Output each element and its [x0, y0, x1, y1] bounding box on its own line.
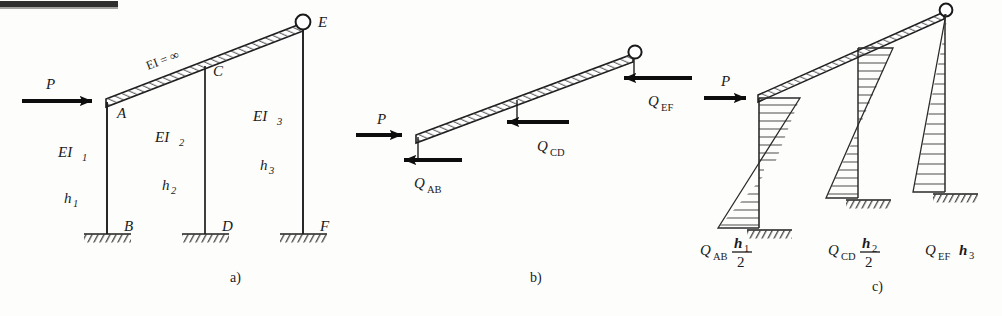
- node-label-C: C: [213, 63, 224, 79]
- node-label-E: E: [317, 14, 327, 30]
- scan-edge-artifact: [0, 1, 118, 7]
- moment-value-label-EF: Q EF h 3: [925, 242, 974, 262]
- force-label-QCD: Q CD: [537, 138, 565, 158]
- moment-label-AB-q: Q: [700, 242, 711, 258]
- fixed-support-B: [84, 234, 131, 243]
- load-label-P-b: P: [376, 111, 386, 127]
- column-label-h2-base: h: [162, 177, 170, 193]
- column-label-EI2: EI 2: [154, 129, 185, 148]
- fixed-support-moment-CD: [846, 200, 891, 209]
- moment-label-CD-sub: CD: [841, 251, 856, 262]
- column-label-h1: h 1: [64, 190, 78, 209]
- column-label-h3-base: h: [260, 157, 268, 173]
- column-label-h3-sub: 3: [268, 165, 274, 176]
- panel-caption-a: a): [230, 270, 241, 286]
- node-label-F: F: [319, 218, 330, 234]
- moment-label-CD-numer: h: [862, 235, 870, 251]
- moment-outline-EF: [913, 14, 946, 192]
- column-label-EI3: EI 3: [252, 108, 282, 127]
- moment-label-CD-denom: 2: [865, 254, 873, 270]
- scan-edge-artifact-thin: [0, 7, 118, 9]
- moment-label-AB-denom: 2: [737, 254, 745, 270]
- column-label-h1-sub: 1: [73, 198, 78, 209]
- force-label-QEF: Q EF: [648, 93, 673, 113]
- hinge-node-E: [296, 15, 311, 30]
- hinge-node-beam-right: [628, 45, 641, 58]
- force-label-QCD-base: Q: [537, 138, 548, 154]
- column-label-h1-base: h: [64, 190, 72, 206]
- column-label-h2: h 2: [162, 177, 177, 196]
- force-label-QAB-base: Q: [414, 175, 425, 191]
- moment-diagram-EF: [907, 14, 978, 203]
- moment-value-label-CD: Q CD h 2 2: [828, 235, 880, 270]
- moment-diagram-AB: [712, 98, 805, 239]
- moment-hatch-CD-top: [853, 55, 898, 119]
- column-label-EI1-sub: 1: [82, 152, 87, 163]
- column-label-EI1-base: EI: [57, 144, 73, 160]
- force-label-QCD-sub: CD: [550, 147, 565, 158]
- moment-outline-CD-bottom: [826, 123, 859, 198]
- node-label-D: D: [221, 218, 233, 234]
- panel-b: P Q AB Q CD Q EF b): [356, 45, 692, 286]
- panel-c: P: [700, 4, 978, 295]
- force-label-QAB-sub: AB: [427, 184, 442, 195]
- load-label-P-c: P: [720, 73, 730, 89]
- figure-root: P EI = ∞ A B C D E F EI 1 h 1 EI 2 h 2 E…: [0, 0, 1002, 316]
- moment-label-CD-q: Q: [828, 242, 839, 258]
- moment-outline-CD-top: [858, 48, 893, 123]
- moment-label-EF-q: Q: [925, 242, 936, 258]
- column-label-EI2-base: EI: [154, 129, 170, 145]
- moment-label-EF-numer: h: [959, 242, 967, 258]
- column-label-h2-sub: 2: [171, 185, 177, 196]
- force-label-QAB: Q AB: [414, 175, 442, 195]
- column-label-EI3-sub: 3: [276, 116, 282, 127]
- fixed-support-moment-EF: [933, 194, 978, 203]
- panel-a: P EI = ∞ A B C D E F EI 1 h 1 EI 2 h 2 E…: [22, 14, 330, 286]
- node-label-B: B: [124, 218, 133, 234]
- column-label-EI1: EI 1: [57, 144, 87, 163]
- moment-diagram-CD: [820, 48, 898, 209]
- column-label-h3: h 3: [260, 157, 274, 176]
- engineering-figure: P EI = ∞ A B C D E F EI 1 h 1 EI 2 h 2 E…: [0, 0, 1002, 316]
- rigid-beam-moment-panel: [758, 12, 944, 102]
- force-label-QEF-sub: EF: [661, 102, 673, 113]
- beam-stiffness-label: EI = ∞: [144, 48, 181, 73]
- fixed-support-F: [280, 234, 327, 243]
- moment-label-AB-sub: AB: [713, 251, 728, 262]
- moment-hatch-AB-top: [755, 105, 805, 160]
- load-label-P-a: P: [45, 76, 55, 92]
- panel-caption-c: c): [872, 279, 883, 295]
- panel-caption-b: b): [530, 270, 542, 286]
- moment-value-label-AB: Q AB h 1 2: [700, 235, 752, 270]
- fixed-support-D: [182, 234, 229, 243]
- node-label-A: A: [116, 105, 127, 121]
- column-label-EI2-sub: 2: [179, 137, 185, 148]
- moment-label-EF-sub: EF: [938, 251, 950, 262]
- rigid-beam-free-body: [416, 54, 633, 143]
- column-label-EI3-base: EI: [252, 108, 268, 124]
- moment-label-EF-numer-sub: 3: [969, 250, 974, 261]
- moment-label-AB-numer: h: [734, 235, 742, 251]
- force-label-QEF-base: Q: [648, 93, 659, 109]
- fixed-support-moment-AB: [747, 230, 792, 239]
